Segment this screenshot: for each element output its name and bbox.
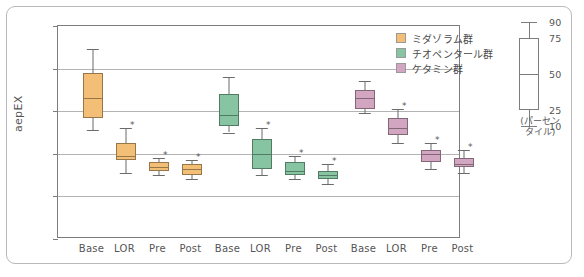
legend-item[interactable]: ミダゾラム群: [396, 31, 494, 45]
percentile-key-upper-whisker: [529, 22, 530, 38]
median-line: [388, 128, 408, 129]
legend-swatch-icon: [396, 48, 406, 58]
y-axis-title: aepEX: [12, 96, 25, 132]
percentile-key: 9075502510 (パーセン タイル): [505, 16, 575, 140]
median-line: [421, 154, 441, 155]
lower-cap: [185, 179, 197, 180]
x-tick-label: LOR: [250, 243, 271, 254]
box-rect: [421, 150, 441, 163]
x-tick-label: LOR: [386, 243, 407, 254]
median-line: [318, 175, 338, 176]
legend-label: ミダゾラム群: [412, 31, 473, 46]
median-line: [83, 98, 103, 99]
y-tick-mark: [53, 154, 58, 155]
box-rect: [116, 143, 136, 160]
legend-item[interactable]: ケタミン群: [396, 61, 494, 75]
median-line: [182, 169, 202, 170]
median-line: [219, 115, 239, 116]
significance-marker: *: [266, 122, 271, 129]
y-tick-mark: [53, 26, 58, 27]
significance-marker: *: [130, 122, 135, 129]
legend: ミダゾラム群チオペンタール群ケタミン群: [396, 31, 494, 76]
median-line: [116, 156, 136, 157]
legend-swatch-icon: [396, 33, 406, 43]
upper-cap: [358, 81, 370, 82]
x-tick-label: Base: [351, 243, 377, 254]
lower-cap: [391, 143, 403, 144]
median-line: [355, 98, 375, 99]
median-line: [252, 154, 272, 155]
lower-cap: [222, 133, 234, 134]
percentile-key-label: 50: [549, 69, 562, 80]
lower-cap: [288, 179, 300, 180]
box-plot: [219, 26, 239, 239]
median-line: [285, 171, 305, 172]
x-tick-label: Post: [315, 243, 337, 254]
figure-container: aepEX 020406080100 ********* BaseLORPreP…: [0, 0, 584, 277]
significance-marker: *: [468, 144, 473, 151]
upper-whisker: [463, 150, 464, 159]
upper-whisker: [397, 109, 398, 118]
lower-cap: [358, 113, 370, 114]
significance-marker: *: [299, 150, 304, 157]
legend-label: チオペンタール群: [412, 46, 494, 61]
lower-cap: [457, 173, 469, 174]
significance-marker: *: [196, 154, 201, 161]
x-tick-label: Pre: [285, 243, 302, 254]
lower-cap: [86, 130, 98, 131]
legend-item[interactable]: チオペンタール群: [396, 46, 494, 60]
box-plot: *: [149, 26, 169, 239]
percentile-key-label: 90: [549, 17, 562, 28]
box-rect: [219, 94, 239, 126]
percentile-key-caption-line2: タイル): [505, 127, 575, 138]
percentile-key-median: [519, 74, 539, 75]
box-rect: [83, 73, 103, 118]
box-rect: [355, 90, 375, 109]
lower-whisker: [397, 135, 398, 144]
lower-whisker: [92, 118, 93, 131]
upper-whisker: [125, 128, 126, 143]
y-tick-mark: [53, 239, 58, 240]
box-plot: *: [252, 26, 272, 239]
x-tick-label: Post: [179, 243, 201, 254]
box-plot: *: [116, 26, 136, 239]
lower-cap: [152, 175, 164, 176]
box-plot: [83, 26, 103, 239]
percentile-key-caption-line1: (パーセン: [505, 116, 575, 127]
lower-cap: [424, 169, 436, 170]
significance-marker: *: [332, 158, 337, 165]
box-plot: *: [318, 26, 338, 239]
lower-cap: [255, 175, 267, 176]
x-tick-label: Post: [451, 243, 473, 254]
x-tick-label: Base: [215, 243, 241, 254]
significance-marker: *: [402, 103, 407, 110]
upper-whisker: [364, 81, 365, 90]
percentile-key-label: 75: [549, 33, 562, 44]
box-plot: *: [285, 26, 305, 239]
percentile-key-caption: (パーセン タイル): [505, 116, 575, 138]
upper-whisker: [261, 128, 262, 139]
upper-cap: [86, 49, 98, 50]
x-tick-label: LOR: [114, 243, 135, 254]
y-tick-mark: [53, 69, 58, 70]
upper-whisker: [228, 77, 229, 94]
y-tick-mark: [53, 111, 58, 112]
lower-cap: [119, 173, 131, 174]
box-plot: *: [182, 26, 202, 239]
legend-swatch-icon: [396, 63, 406, 73]
legend-label: ケタミン群: [412, 61, 463, 76]
box-rect: [285, 162, 305, 175]
upper-whisker: [92, 49, 93, 72]
x-tick-label: Pre: [421, 243, 438, 254]
y-tick-mark: [53, 196, 58, 197]
significance-marker: *: [435, 137, 440, 144]
median-line: [454, 164, 474, 165]
percentile-key-upper-cap: [521, 22, 537, 23]
percentile-key-label: 25: [549, 105, 562, 116]
lower-cap: [321, 184, 333, 185]
median-line: [149, 167, 169, 168]
x-tick-label: Pre: [149, 243, 166, 254]
box-rect: [388, 118, 408, 135]
x-tick-label: Base: [79, 243, 105, 254]
box-plot: [355, 26, 375, 239]
